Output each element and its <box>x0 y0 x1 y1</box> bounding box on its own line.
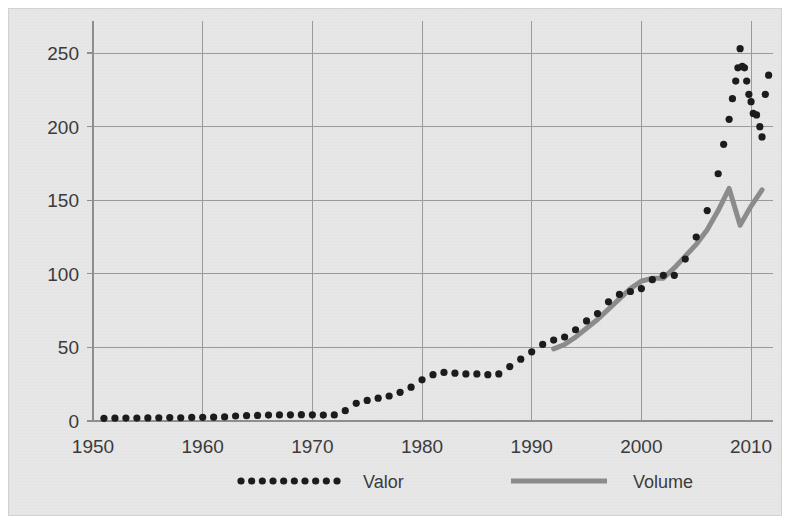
valor-data-point <box>737 45 744 52</box>
valor-data-point <box>243 412 250 419</box>
valor-data-point <box>638 285 645 292</box>
valor-data-point <box>682 256 689 263</box>
y-tick-label: 150 <box>47 190 79 211</box>
legend-swatch-valor-dot <box>259 477 266 484</box>
legend-swatch-valor-dot <box>237 477 244 484</box>
valor-data-point <box>122 414 129 421</box>
valor-data-point <box>741 64 748 71</box>
valor-data-point <box>594 310 601 317</box>
valor-data-point <box>616 291 623 298</box>
valor-data-point <box>133 414 140 421</box>
valor-data-point <box>756 123 763 130</box>
valor-data-point <box>429 371 436 378</box>
valor-data-point <box>660 272 667 279</box>
valor-data-point <box>221 413 228 420</box>
valor-data-point <box>605 298 612 305</box>
valor-data-point <box>166 414 173 421</box>
valor-data-point <box>287 411 294 418</box>
chart-figure: 050100150200250 195019601970198019902000… <box>0 0 790 530</box>
valor-data-point <box>188 414 195 421</box>
valor-data-point <box>309 411 316 418</box>
gridlines-group <box>93 21 773 421</box>
legend-swatch-valor-dot <box>323 477 330 484</box>
valor-data-point <box>177 414 184 421</box>
valor-data-point <box>747 98 754 105</box>
valor-data-point <box>726 116 733 123</box>
x-tick-label: 2000 <box>620 436 662 457</box>
legend-swatch-valor-dot <box>291 477 298 484</box>
legend-swatch-valor-dot <box>248 477 255 484</box>
valor-data-point <box>440 369 447 376</box>
valor-data-point <box>743 77 750 84</box>
chart-panel: 050100150200250 195019601970198019902000… <box>8 8 782 516</box>
valor-data-point <box>671 272 678 279</box>
valor-data-point <box>484 371 491 378</box>
valor-data-point <box>265 412 272 419</box>
valor-data-point <box>704 207 711 214</box>
valor-data-point <box>539 341 546 348</box>
valor-data-point <box>210 414 217 421</box>
valor-data-point <box>418 376 425 383</box>
valor-data-point <box>550 336 557 343</box>
axes-group <box>87 21 773 421</box>
series-volume <box>554 188 762 348</box>
chart-legend: ValorVolume <box>237 472 693 492</box>
y-tick-label: 50 <box>58 337 79 358</box>
valor-data-point <box>155 414 162 421</box>
valor-data-point <box>762 91 769 98</box>
valor-data-point <box>199 414 206 421</box>
valor-data-point <box>451 370 458 377</box>
valor-data-point <box>506 363 513 370</box>
chart-plot-area: 050100150200250 195019601970198019902000… <box>9 9 782 516</box>
series-valor <box>100 45 772 422</box>
valor-data-point <box>528 348 535 355</box>
valor-data-point <box>753 111 760 118</box>
legend-swatch-valor-dot <box>312 477 319 484</box>
y-tick-label: 200 <box>47 117 79 138</box>
x-tick-label: 1970 <box>291 436 333 457</box>
valor-data-point <box>572 326 579 333</box>
valor-data-point <box>583 317 590 324</box>
valor-data-point <box>407 384 414 391</box>
valor-data-point <box>298 411 305 418</box>
valor-data-point <box>144 414 151 421</box>
valor-data-point <box>729 95 736 102</box>
valor-data-point <box>473 370 480 377</box>
legend-swatch-valor-dot <box>269 477 276 484</box>
valor-data-point <box>254 412 261 419</box>
y-tick-label: 0 <box>68 411 79 432</box>
valor-data-point <box>495 370 502 377</box>
valor-data-point <box>364 397 371 404</box>
legend-label-volume: Volume <box>633 472 693 492</box>
valor-data-point <box>353 400 360 407</box>
x-tick-label: 2010 <box>730 436 772 457</box>
x-tick-label: 1960 <box>182 436 224 457</box>
valor-data-point <box>111 415 118 422</box>
valor-data-point <box>715 170 722 177</box>
x-axis-tick-labels: 1950196019701980199020002010 <box>72 436 772 457</box>
valor-data-point <box>397 389 404 396</box>
valor-data-point <box>517 356 524 363</box>
valor-data-point <box>693 233 700 240</box>
valor-data-point <box>627 288 634 295</box>
legend-swatch-valor-dot <box>301 477 308 484</box>
y-tick-label: 250 <box>47 43 79 64</box>
valor-data-point <box>758 133 765 140</box>
valor-data-point <box>276 411 283 418</box>
valor-data-point <box>765 72 772 79</box>
valor-data-point <box>375 395 382 402</box>
x-tick-label: 1990 <box>511 436 553 457</box>
y-tick-label: 100 <box>47 264 79 285</box>
legend-swatch-valor-dot <box>333 477 340 484</box>
valor-data-point <box>732 77 739 84</box>
valor-data-point <box>649 276 656 283</box>
y-axis-tick-labels: 050100150200250 <box>47 43 79 432</box>
x-tick-label: 1980 <box>401 436 443 457</box>
valor-data-point <box>745 91 752 98</box>
valor-data-point <box>331 411 338 418</box>
x-tick-label: 1950 <box>72 436 114 457</box>
valor-data-point <box>232 412 239 419</box>
volume-line <box>554 188 762 348</box>
valor-data-point <box>386 392 393 399</box>
valor-data-point <box>720 141 727 148</box>
